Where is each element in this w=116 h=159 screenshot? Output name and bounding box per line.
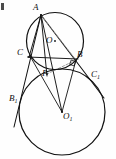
point-label-B1-subscript: 1 <box>15 98 18 104</box>
point-dots-group <box>28 14 77 113</box>
point-label-C-text: C <box>17 47 23 57</box>
circles-group <box>19 13 105 156</box>
point-label-O-text: O <box>46 35 53 45</box>
point-label-O1: O1 <box>63 112 73 122</box>
dot-A <box>40 14 42 16</box>
point-label-P-text: P <box>42 68 48 78</box>
dot-O <box>54 40 56 42</box>
point-label-P: P <box>42 69 48 78</box>
point-label-C: C <box>17 48 23 57</box>
point-label-B-text: B <box>77 49 83 59</box>
line-C-to-B <box>28 57 79 59</box>
point-label-A-text: A <box>33 2 39 12</box>
point-label-A: A <box>33 3 39 12</box>
point-label-B1: B1 <box>9 94 18 104</box>
dot-B <box>75 59 77 61</box>
point-label-O: O <box>46 36 53 45</box>
point-label-C1-subscript: 1 <box>97 74 100 80</box>
point-label-C1: C1 <box>91 70 100 80</box>
dot-C <box>28 56 30 58</box>
point-label-B: B <box>77 50 83 59</box>
geometry-figure: A O C B C1 P B1 O1 <box>0 0 116 159</box>
point-label-O1-subscript: 1 <box>70 116 73 122</box>
